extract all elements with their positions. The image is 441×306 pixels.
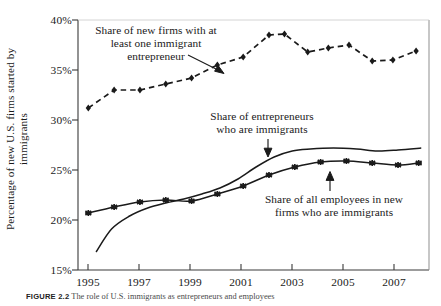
annotation-entrepreneurs-label: Share of entrepreneurs who are immigrant… bbox=[196, 110, 328, 136]
x-tick-label: 2005 bbox=[320, 277, 366, 288]
figure-caption-tag: FIGURE 2.2 bbox=[26, 292, 69, 301]
x-tick-label: 2003 bbox=[269, 277, 315, 288]
annotation-line: entrepreneur bbox=[76, 50, 236, 63]
x-tick-label: 2001 bbox=[218, 277, 264, 288]
annotation-new-firms-label: Share of new firms with at least one imm… bbox=[76, 24, 236, 64]
annotation-line: Share of entrepreneurs bbox=[196, 110, 328, 123]
annotation-line: Share of new firms with at bbox=[76, 24, 236, 37]
figure-caption-text: The role of U.S. immigrants as entrepren… bbox=[71, 292, 274, 301]
figure-caption: FIGURE 2.2 The role of U.S. immigrants a… bbox=[26, 292, 426, 302]
annotation-line: who are immigrants bbox=[196, 123, 328, 136]
x-tick-label: 1995 bbox=[65, 277, 111, 288]
x-tick-label: 1999 bbox=[167, 277, 213, 288]
x-tick-label: 1997 bbox=[116, 277, 162, 288]
annotation-line: Share of all employees in new bbox=[250, 193, 418, 206]
annotation-line: least one immigrant bbox=[76, 37, 236, 50]
annotation-line: firms who are immigrants bbox=[250, 206, 418, 219]
x-tick-label: 2007 bbox=[371, 277, 417, 288]
figure-container: Percentage of new U.S. firms started by … bbox=[0, 0, 441, 306]
annotation-employees-label: Share of all employees in new firms who … bbox=[250, 193, 418, 219]
